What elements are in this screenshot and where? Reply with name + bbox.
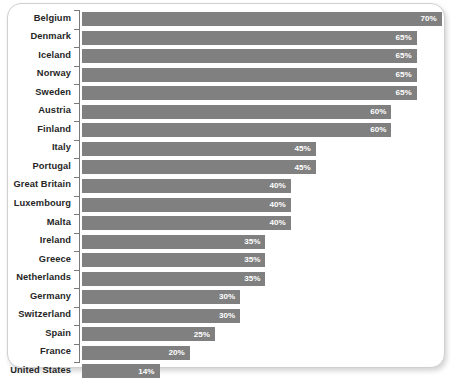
bar: 65% [82, 31, 417, 45]
bar-value-label: 35% [244, 274, 260, 283]
bar-row: Belgium70% [8, 10, 446, 29]
category-label: Malta [8, 217, 71, 227]
category-label: Germany [8, 291, 71, 301]
axis-tick-mark [74, 196, 80, 197]
bar-value-label: 20% [169, 348, 185, 357]
category-label: Great Britain [8, 179, 71, 189]
bar-row: Sweden65% [8, 84, 446, 103]
axis-tick-mark [74, 121, 80, 122]
bar-row: France20% [8, 344, 446, 363]
bar: 40% [82, 179, 291, 193]
bar-value-label: 40% [269, 218, 285, 227]
axis-tick-mark [74, 158, 80, 159]
bar-row: Switzerland30% [8, 307, 446, 326]
bar-row: Netherlands35% [8, 270, 446, 289]
bar-value-label: 70% [421, 14, 437, 23]
bar-value-label: 35% [244, 255, 260, 264]
bar-value-label: 65% [395, 88, 411, 97]
bar-row: Italy45% [8, 140, 446, 159]
category-label: Denmark [8, 31, 71, 41]
bar-value-label: 30% [219, 292, 235, 301]
bar: 30% [82, 309, 240, 323]
category-label: Italy [8, 142, 71, 152]
bar: 60% [82, 123, 391, 137]
category-label: France [8, 346, 71, 356]
bar-row: Ireland35% [8, 233, 446, 252]
bar-row: Finland60% [8, 121, 446, 140]
bar: 25% [82, 327, 215, 341]
axis-tick-mark [74, 214, 80, 215]
bar-row: United States14% [8, 362, 446, 381]
axis-tick-mark [74, 288, 80, 289]
axis-tick-mark [74, 233, 80, 234]
bar-chart-plot-area: Belgium70%Denmark65%Iceland65%Norway65%S… [8, 4, 446, 369]
bar-value-label: 14% [138, 367, 154, 376]
bar-value-label: 65% [395, 70, 411, 79]
axis-tick-mark [74, 103, 80, 104]
axis-tick-mark [74, 140, 80, 141]
bar: 65% [82, 68, 417, 82]
axis-tick-mark [74, 10, 80, 11]
bar: 35% [82, 272, 265, 286]
bar-value-label: 30% [219, 311, 235, 320]
category-label: Finland [8, 124, 71, 134]
bar-row: Portugal45% [8, 158, 446, 177]
bar: 30% [82, 290, 240, 304]
bar-row: Great Britain40% [8, 177, 446, 196]
bar-row: Greece35% [8, 251, 446, 270]
category-label: Ireland [8, 235, 71, 245]
category-label: United States [8, 365, 71, 375]
category-label: Spain [8, 328, 71, 338]
bar: 20% [82, 346, 190, 360]
axis-tick-mark [74, 29, 80, 30]
bar-value-label: 60% [370, 107, 386, 116]
bar: 45% [82, 160, 316, 174]
bar-row: Denmark65% [8, 29, 446, 48]
category-label: Iceland [8, 50, 71, 60]
bar-value-label: 35% [244, 237, 260, 246]
axis-tick-mark [74, 177, 80, 178]
category-label: Austria [8, 105, 71, 115]
bar-value-label: 40% [269, 181, 285, 190]
bar-value-label: 45% [295, 163, 311, 172]
category-label: Belgium [8, 13, 71, 23]
bar: 65% [82, 49, 417, 63]
axis-tick-mark [74, 362, 80, 363]
category-label: Norway [8, 68, 71, 78]
bar: 35% [82, 235, 265, 249]
category-label: Sweden [8, 87, 71, 97]
bar-row: Iceland65% [8, 47, 446, 66]
category-label: Greece [8, 254, 71, 264]
axis-tick-mark [74, 251, 80, 252]
bar-value-label: 60% [370, 125, 386, 134]
bar: 35% [82, 253, 265, 267]
bar: 45% [82, 142, 316, 156]
axis-tick-mark [74, 325, 80, 326]
bar-row: Malta40% [8, 214, 446, 233]
bar-value-label: 40% [269, 200, 285, 209]
axis-tick-mark [74, 66, 80, 67]
bar: 40% [82, 198, 291, 212]
category-label: Luxembourg [8, 198, 71, 208]
bar-row: Germany30% [8, 288, 446, 307]
bar-row: Austria60% [8, 103, 446, 122]
bar-value-label: 65% [395, 51, 411, 60]
bar-value-label: 65% [395, 33, 411, 42]
bar-value-label: 45% [295, 144, 311, 153]
category-label: Switzerland [8, 309, 71, 319]
axis-tick-mark [74, 84, 80, 85]
category-label: Portugal [8, 161, 71, 171]
bar: 14% [82, 364, 160, 378]
chart-card: Belgium70%Denmark65%Iceland65%Norway65%S… [7, 3, 445, 368]
bar-row: Spain25% [8, 325, 446, 344]
bar: 65% [82, 86, 417, 100]
category-label: Netherlands [8, 272, 71, 282]
axis-tick-mark [74, 47, 80, 48]
bar-row: Luxembourg40% [8, 196, 446, 215]
axis-tick-mark [74, 344, 80, 345]
bar: 70% [82, 12, 442, 26]
bar-value-label: 25% [194, 330, 210, 339]
bar: 60% [82, 105, 391, 119]
bar-row: Norway65% [8, 66, 446, 85]
axis-tick-mark [74, 307, 80, 308]
